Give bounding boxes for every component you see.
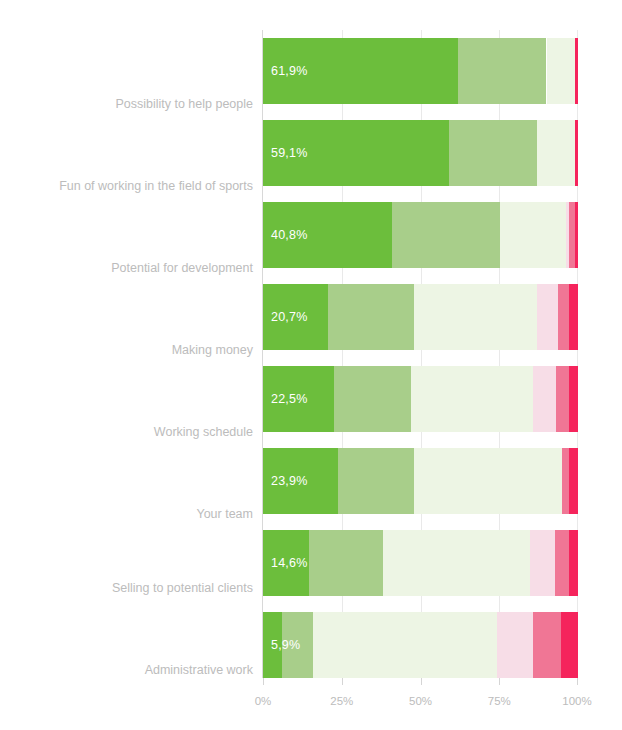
- bar-segment-very-satisfied: [263, 202, 392, 268]
- bar-segment-no-answer: [575, 38, 578, 104]
- bar-segment-no-answer: [569, 284, 578, 350]
- bar-segment-very-satisfied: [263, 530, 309, 596]
- bar-segment-very-satisfied: [263, 366, 334, 432]
- x-tick-label-75: 75%: [488, 695, 511, 707]
- bar-segment-dissatisfied: [537, 284, 558, 350]
- category-label-7: Administrative work: [10, 663, 253, 677]
- x-tick-mark-100: [577, 678, 578, 685]
- bar-segment-very-satisfied: [263, 120, 449, 186]
- bar-segment-dissatisfied: [533, 366, 556, 432]
- bar-row: 22,5%: [263, 366, 578, 432]
- bar-segment-no-answer: [569, 366, 578, 432]
- bar-row: 61,9%: [263, 38, 578, 104]
- bar-segment-satisfied: [338, 448, 414, 514]
- bar-row: 59,1%: [263, 120, 578, 186]
- bar-segment-neutral: [313, 612, 497, 678]
- bar-segment-very-satisfied: [263, 38, 458, 104]
- bar-segment-satisfied: [282, 612, 314, 678]
- bar-segment-very-satisfied: [263, 612, 282, 678]
- bar-segment-satisfied: [392, 202, 501, 268]
- bar-segment-satisfied: [309, 530, 383, 596]
- category-label-5: Your team: [10, 507, 253, 521]
- x-tick-mark-50: [421, 678, 422, 685]
- bar-segment-very-dissatisfied: [533, 612, 561, 678]
- bar-row: 40,8%: [263, 202, 578, 268]
- bar-segment-neutral: [414, 448, 562, 514]
- category-label-3: Making money: [10, 343, 253, 357]
- bar-segment-no-answer: [575, 120, 578, 186]
- category-label-2: Potential for development: [10, 261, 253, 275]
- category-label-6: Selling to potential clients: [10, 581, 253, 595]
- bar-segment-very-dissatisfied: [556, 366, 569, 432]
- bar-segment-no-answer: [561, 612, 578, 678]
- bar-segment-very-dissatisfied: [555, 530, 569, 596]
- bar-segment-neutral: [411, 366, 533, 432]
- bar-row: 14,6%: [263, 530, 578, 596]
- bar-segment-neutral: [547, 38, 575, 104]
- bar-segment-no-answer: [569, 448, 578, 514]
- x-axis: 0% 25% 50% 75% 100%: [263, 678, 578, 718]
- bar-segment-dissatisfied: [497, 612, 533, 678]
- bar-segment-very-satisfied: [263, 284, 328, 350]
- bar-segment-no-answer: [575, 202, 578, 268]
- category-label-1: Fun of working in the field of sports: [10, 179, 253, 193]
- x-tick-mark-0: [263, 678, 264, 685]
- category-label-4: Working schedule: [10, 425, 253, 439]
- category-label-0: Possibility to help people: [10, 97, 253, 111]
- x-tick-mark-25: [342, 678, 343, 685]
- bar-row: 23,9%: [263, 448, 578, 514]
- bar-segment-very-satisfied: [263, 448, 338, 514]
- bar-segment-neutral: [414, 284, 537, 350]
- bar-segment-neutral: [383, 530, 530, 596]
- x-tick-label-100: 100%: [562, 695, 591, 707]
- stacked-bar-chart: 61,9%59,1%40,8%20,7%22,5%23,9%14,6%5,9% …: [0, 0, 622, 730]
- bar-segment-satisfied: [328, 284, 414, 350]
- bar-segment-satisfied: [458, 38, 547, 104]
- bar-segment-dissatisfied: [530, 530, 555, 596]
- x-tick-label-0: 0%: [255, 695, 272, 707]
- plot-area: 61,9%59,1%40,8%20,7%22,5%23,9%14,6%5,9%: [263, 30, 578, 680]
- bar-segment-satisfied: [334, 366, 411, 432]
- bar-row: 5,9%: [263, 612, 578, 678]
- bar-segment-satisfied: [449, 120, 537, 186]
- bar-row: 20,7%: [263, 284, 578, 350]
- bar-segment-very-dissatisfied: [562, 448, 569, 514]
- x-tick-label-25: 25%: [330, 695, 353, 707]
- bar-segment-neutral: [500, 202, 566, 268]
- x-tick-mark-75: [499, 678, 500, 685]
- bar-segment-very-dissatisfied: [558, 284, 569, 350]
- x-tick-label-50: 50%: [409, 695, 432, 707]
- bar-segment-neutral: [537, 120, 574, 186]
- bar-segment-no-answer: [569, 530, 578, 596]
